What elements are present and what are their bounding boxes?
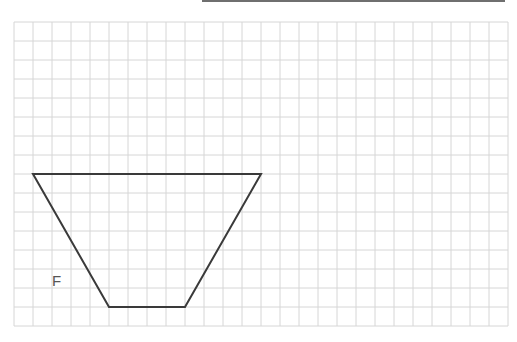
grid-diagram: F — [0, 0, 517, 342]
shape-label-f: F — [52, 272, 61, 289]
